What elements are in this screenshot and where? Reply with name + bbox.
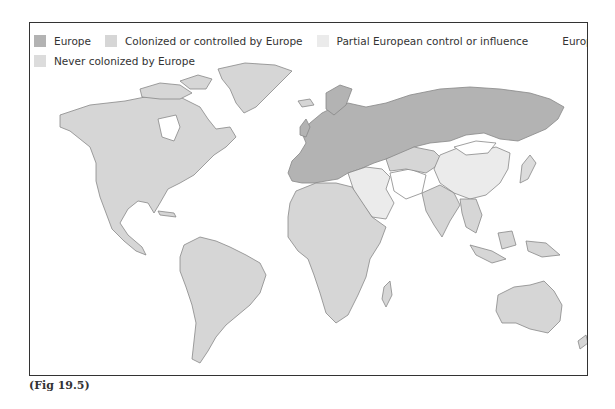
- legend-item-europe: Europe: [34, 35, 91, 47]
- region-southeast-asia: [460, 199, 482, 233]
- legend-item-partial: Partial European control or influence: [317, 35, 529, 47]
- region-iceland: [298, 99, 314, 107]
- world-map: [30, 23, 588, 376]
- legend-label-colonized: Colonized or controlled by Europe: [125, 35, 303, 47]
- figure-caption: (Fig 19.5): [29, 379, 90, 392]
- region-new-zealand: [578, 335, 588, 349]
- legend-row-1: Europe Colonized or controlled by Europe…: [34, 31, 587, 51]
- map-legend: Europe Colonized or controlled by Europe…: [34, 31, 587, 71]
- legend-label-partial: Partial European control or influence: [337, 35, 529, 47]
- region-indonesia: [470, 245, 506, 263]
- legend-row-2: Never colonized by Europe: [34, 51, 587, 71]
- legend-swatch-never-colonized: [34, 55, 46, 67]
- region-borneo: [498, 231, 516, 249]
- legend-label-sphere: European sphere of inf: [562, 35, 588, 47]
- legend-label-never-colonized: Never colonized by Europe: [54, 55, 195, 67]
- legend-label-europe: Europe: [54, 35, 91, 47]
- legend-swatch-colonized: [105, 35, 117, 47]
- legend-swatch-sphere: [542, 35, 554, 47]
- region-iran-afghanistan: [390, 169, 426, 199]
- region-south-america: [180, 237, 266, 363]
- legend-swatch-partial: [317, 35, 329, 47]
- region-north-america: [60, 95, 236, 255]
- legend-item-never-colonized: Never colonized by Europe: [34, 55, 195, 67]
- region-australia: [496, 281, 562, 333]
- region-india: [422, 185, 460, 237]
- legend-item-sphere: European sphere of inf: [542, 35, 588, 47]
- legend-swatch-europe: [34, 35, 46, 47]
- region-caribbean: [158, 211, 176, 217]
- region-arctic-islands-2: [180, 75, 212, 89]
- map-figure-frame: Europe Colonized or controlled by Europe…: [29, 22, 588, 376]
- legend-item-colonized: Colonized or controlled by Europe: [105, 35, 303, 47]
- region-japan: [520, 155, 536, 183]
- region-arctic-islands: [140, 83, 192, 99]
- region-new-guinea: [526, 241, 560, 257]
- region-madagascar: [382, 281, 392, 307]
